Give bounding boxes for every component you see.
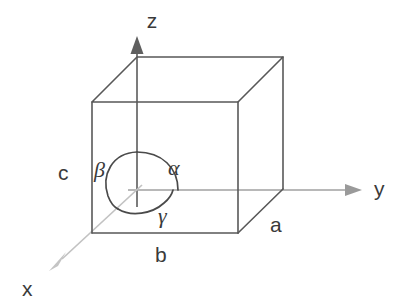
axis-label-z: z — [147, 9, 158, 32]
unit-cell-figure: z y x a b c α β γ — [0, 0, 410, 306]
beta-angle-arc — [106, 152, 137, 209]
angle-label-beta: β — [93, 157, 105, 182]
edge-label-c: c — [58, 161, 69, 184]
x-axis-arrowhead-icon — [49, 252, 66, 271]
edge-label-a: a — [270, 213, 282, 236]
z-axis-arrowhead-icon — [131, 36, 144, 54]
axis-label-y: y — [374, 177, 385, 200]
axis-group — [49, 36, 362, 271]
axis-label-x: x — [22, 277, 33, 300]
cube-top-face-edges — [92, 57, 283, 102]
cube-wireframe — [92, 57, 283, 233]
unit-cell-diagram: z y x a b c α β γ — [0, 0, 410, 306]
label-group: z y x a b c α β γ — [22, 9, 385, 300]
y-axis-arrowhead-icon — [345, 184, 362, 196]
angle-label-alpha: α — [168, 155, 180, 180]
x-axis-line — [62, 185, 142, 259]
edge-label-b: b — [155, 243, 167, 266]
angle-label-gamma: γ — [158, 203, 168, 228]
